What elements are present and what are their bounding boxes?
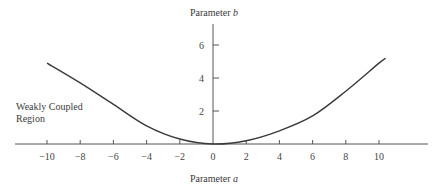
x-axis-label: Parameter a xyxy=(190,173,238,184)
x-tick-label: −2 xyxy=(174,151,185,162)
region-annotation-line-1: Weakly Coupled xyxy=(16,101,83,113)
y-axis-label-variable: b xyxy=(233,7,238,18)
y-axis-label: Parameter b xyxy=(190,7,238,18)
x-tick-label: −6 xyxy=(108,151,119,162)
y-axis-label-text: Parameter xyxy=(190,7,233,18)
x-tick-label: 10 xyxy=(374,151,384,162)
x-tick-label: 4 xyxy=(277,151,282,162)
data-curve xyxy=(47,58,386,144)
region-annotation-line-2: Region xyxy=(16,113,83,125)
x-tick-label: −10 xyxy=(39,151,55,162)
chart-canvas: −10−8−6−4−20246810246 xyxy=(0,0,440,191)
x-tick-label: 2 xyxy=(244,151,249,162)
y-tick-label: 2 xyxy=(199,106,204,117)
x-tick-label: −4 xyxy=(141,151,152,162)
x-axis-label-text: Parameter xyxy=(190,173,233,184)
y-tick-label: 4 xyxy=(199,73,204,84)
x-axis-label-variable: a xyxy=(233,173,238,184)
y-tick-label: 6 xyxy=(199,40,204,51)
axes xyxy=(15,24,428,144)
region-annotation: Weakly Coupled Region xyxy=(16,101,83,125)
x-tick-label: 0 xyxy=(211,151,216,162)
x-tick-label: 6 xyxy=(310,151,315,162)
x-tick-label: −8 xyxy=(75,151,86,162)
x-tick-label: 8 xyxy=(343,151,348,162)
